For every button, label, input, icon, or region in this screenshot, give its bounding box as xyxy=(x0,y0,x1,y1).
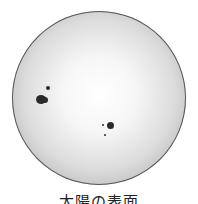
figure-caption: 太陽の表面 xyxy=(0,193,198,204)
sunspot-right-small xyxy=(102,124,104,126)
sunspot-left-large-2 xyxy=(42,97,48,103)
sunspot-right-large xyxy=(107,122,114,129)
sunspot-right-dot xyxy=(104,134,106,136)
sunspot-left-small xyxy=(46,86,50,90)
